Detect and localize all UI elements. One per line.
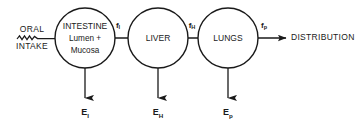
node-intestine: INTESTINE Lumen + Mucosa xyxy=(55,8,115,68)
node-intestine-label-line3: Mucosa xyxy=(71,46,100,55)
squiggle-line-icon xyxy=(17,36,55,40)
node-lungs: LUNGS xyxy=(198,8,258,68)
flux-label-pulmonary: fp xyxy=(261,21,268,31)
node-intestine-label-line2: Lumen + xyxy=(69,34,101,43)
oral-intake-input: ORAL INTAKE xyxy=(16,24,55,51)
pharmacokinetic-flow-diagram: ORAL INTAKE INTESTINE Lumen + Mucosa LIV… xyxy=(0,0,363,128)
flux-label-hepatic-sub: H xyxy=(191,25,195,31)
elimination-label-hepatic-sub: H xyxy=(159,111,164,118)
oral-intake-line2: INTAKE xyxy=(16,41,48,51)
diagram-canvas: ORAL INTAKE INTESTINE Lumen + Mucosa LIV… xyxy=(0,0,363,128)
distribution-label: DISTRIBUTION xyxy=(291,32,355,42)
node-lungs-label: LUNGS xyxy=(213,33,243,43)
elimination-label-pulmonary: Ep xyxy=(223,107,233,118)
node-liver-label: LIVER xyxy=(146,33,171,43)
node-liver: LIVER xyxy=(128,8,188,68)
flux-label-intestinal: fI xyxy=(116,21,121,31)
flux-label-hepatic: fH xyxy=(189,21,196,31)
flux-label-pulmonary-sub: p xyxy=(264,25,268,31)
node-intestine-label-line1: INTESTINE xyxy=(63,21,108,31)
elimination-label-pulmonary-sub: p xyxy=(229,111,233,118)
oral-intake-line1: ORAL xyxy=(20,24,44,34)
elimination-label-intestinal-sub: I xyxy=(87,111,89,118)
elimination-label-intestinal: EI xyxy=(81,107,89,118)
flux-label-intestinal-sub: I xyxy=(119,25,121,31)
elimination-label-hepatic: EH xyxy=(153,107,164,118)
